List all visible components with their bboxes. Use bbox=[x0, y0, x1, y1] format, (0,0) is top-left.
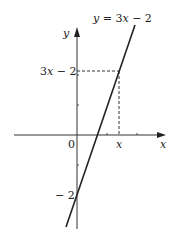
x-axis-label: x bbox=[160, 138, 167, 151]
y-axis-arrow-icon bbox=[74, 27, 80, 37]
equation-label: y = 3x − 2 bbox=[92, 12, 152, 25]
y-point-label: 3x − 2 bbox=[40, 65, 76, 78]
y-axis-label: y bbox=[62, 27, 70, 40]
graph-canvas: y = 3x − 2 y 3x − 2 0 x x − 2 bbox=[0, 0, 178, 233]
x-point-label: x bbox=[116, 138, 123, 151]
origin-label: 0 bbox=[68, 138, 75, 151]
y-intercept-label: − 2 bbox=[55, 189, 75, 202]
function-line bbox=[66, 25, 135, 227]
